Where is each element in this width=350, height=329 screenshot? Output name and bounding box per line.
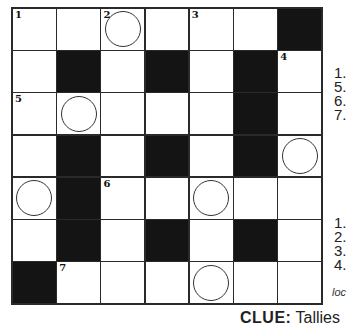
partial-clue-text: loc xyxy=(332,286,346,298)
down-clue-numbers: 1. 2. 3. 4. xyxy=(334,216,347,272)
circle-marker-icon xyxy=(105,11,141,47)
black-cell xyxy=(234,51,277,92)
final-clue-label: CLUE: xyxy=(240,309,291,326)
grid-cell[interactable] xyxy=(13,220,56,261)
across-clue-numbers: 1. 5. 6. 7. xyxy=(334,66,347,122)
cell-number: 4 xyxy=(280,51,287,63)
black-cell xyxy=(234,136,277,177)
grid-cell[interactable] xyxy=(190,93,233,134)
grid-cell[interactable] xyxy=(190,136,233,177)
black-cell xyxy=(146,136,189,177)
grid-cell[interactable] xyxy=(101,136,144,177)
grid-cell[interactable] xyxy=(13,178,56,219)
grid-cell[interactable] xyxy=(146,93,189,134)
crossword-grid: 1234567 xyxy=(11,7,323,305)
grid-cell[interactable] xyxy=(101,262,144,303)
grid-cell[interactable] xyxy=(57,9,100,50)
grid-cell[interactable]: 2 xyxy=(101,9,144,50)
black-cell xyxy=(13,262,56,303)
grid-cell[interactable] xyxy=(278,93,321,134)
grid-cell[interactable]: 6 xyxy=(101,178,144,219)
black-cell xyxy=(146,220,189,261)
grid-cell[interactable] xyxy=(146,262,189,303)
black-cell xyxy=(234,220,277,261)
black-cell xyxy=(57,136,100,177)
grid-cell[interactable] xyxy=(57,93,100,134)
grid-cell[interactable] xyxy=(278,262,321,303)
circle-marker-icon xyxy=(193,265,229,301)
grid-cell[interactable]: 7 xyxy=(57,262,100,303)
grid-cell[interactable] xyxy=(190,262,233,303)
grid-cell[interactable] xyxy=(146,9,189,50)
grid-cell[interactable]: 4 xyxy=(278,51,321,92)
grid-cell[interactable] xyxy=(278,220,321,261)
cell-number: 6 xyxy=(103,178,110,190)
cell-number: 7 xyxy=(59,262,66,274)
final-clue: CLUE: Tallies xyxy=(240,309,340,327)
circle-marker-icon xyxy=(61,96,97,132)
grid-cell[interactable] xyxy=(101,220,144,261)
grid-cell[interactable]: 5 xyxy=(13,93,56,134)
grid-cell[interactable] xyxy=(190,220,233,261)
grid-cell[interactable] xyxy=(101,51,144,92)
black-cell xyxy=(278,9,321,50)
grid-cell[interactable] xyxy=(190,178,233,219)
grid-cell[interactable] xyxy=(278,178,321,219)
grid-cell[interactable] xyxy=(101,93,144,134)
down-clue-number: 4. xyxy=(334,258,347,272)
final-clue-text: Tallies xyxy=(296,309,340,326)
grid-cell[interactable] xyxy=(234,262,277,303)
black-cell xyxy=(57,220,100,261)
grid-cell[interactable] xyxy=(190,51,233,92)
black-cell xyxy=(146,51,189,92)
grid-cell[interactable] xyxy=(146,178,189,219)
black-cell xyxy=(234,93,277,134)
circle-marker-icon xyxy=(16,180,52,216)
grid-cell[interactable]: 3 xyxy=(190,9,233,50)
circle-marker-icon xyxy=(282,138,318,174)
grid-cell[interactable] xyxy=(234,178,277,219)
black-cell xyxy=(57,178,100,219)
grid-cell[interactable] xyxy=(13,51,56,92)
grid-cell[interactable] xyxy=(13,136,56,177)
grid-cell[interactable] xyxy=(234,9,277,50)
grid-cell[interactable] xyxy=(278,136,321,177)
cell-number: 5 xyxy=(15,93,22,105)
cell-number: 3 xyxy=(192,9,199,21)
circle-marker-icon xyxy=(193,180,229,216)
cell-number: 1 xyxy=(15,9,22,21)
grid-cell[interactable]: 1 xyxy=(13,9,56,50)
black-cell xyxy=(57,51,100,92)
across-clue-number: 7. xyxy=(334,108,347,122)
